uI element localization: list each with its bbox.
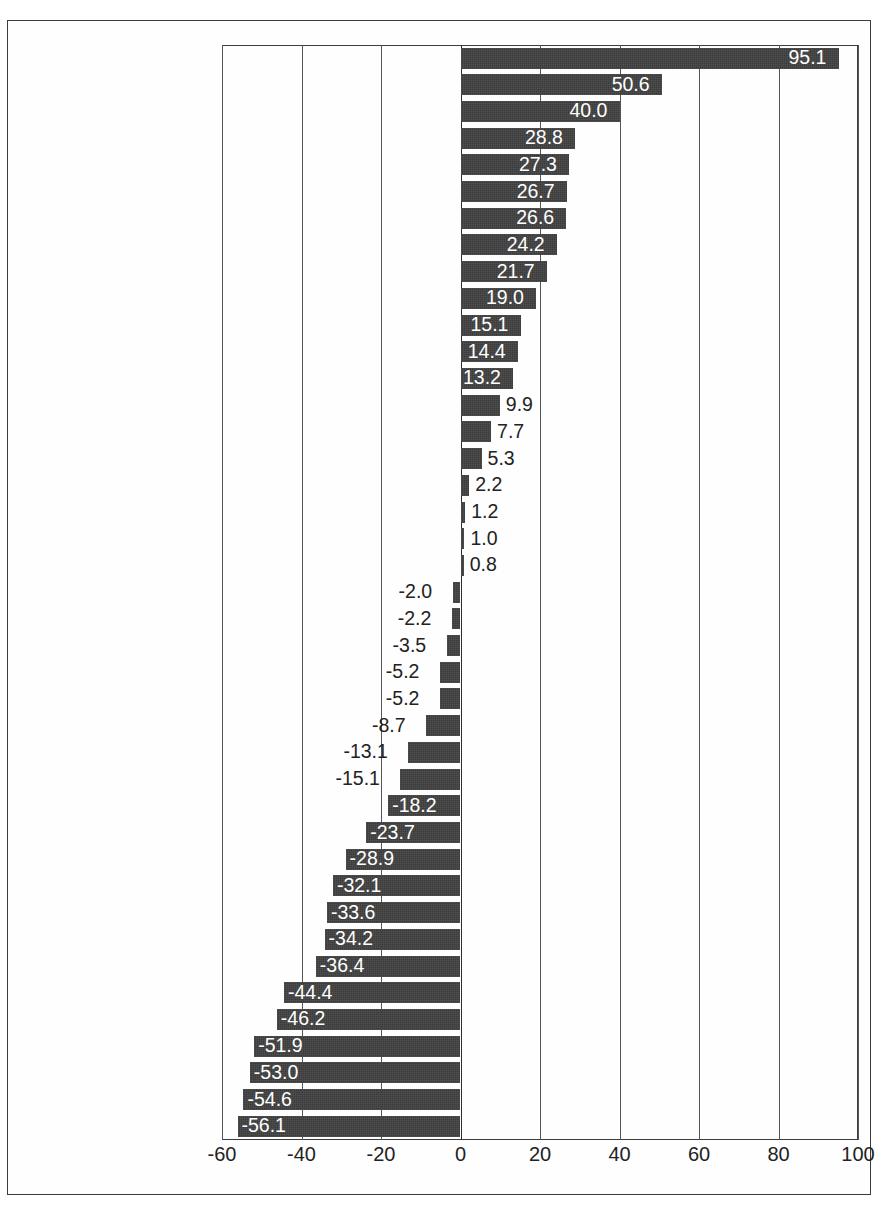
bar [461, 395, 500, 416]
bar-row: Japan5.3 [222, 446, 858, 472]
bar-value-label: -15.1 [335, 768, 379, 790]
bar-value-label: -32.1 [337, 875, 381, 897]
bar-row: United States14.4 [222, 339, 858, 365]
bar-row: Czech Republic-23.7 [222, 820, 858, 846]
bar-row: Hungary-32.1 [222, 873, 858, 899]
bar-row: Australia28.8 [222, 125, 858, 151]
bar [426, 715, 461, 736]
bar-value-label: 1.0 [470, 528, 497, 550]
x-tick-label: 40 [608, 1143, 630, 1166]
bar-row: Finland13.2 [222, 365, 858, 391]
bar-row: Slovakia-33.6 [222, 900, 858, 926]
bar-row: Poland-28.9 [222, 846, 858, 872]
bar-value-label: 19.0 [486, 287, 524, 309]
bar [461, 448, 482, 469]
x-tick-label: 80 [767, 1143, 789, 1166]
bar-value-label: 2.2 [475, 474, 502, 496]
bar-row: Bulgaria-46.2 [222, 1006, 858, 1032]
bar [461, 502, 466, 523]
bar [447, 635, 461, 656]
bar-value-label: -13.1 [343, 741, 387, 763]
bar-value-label: 95.1 [789, 47, 827, 69]
bar-value-label: 50.6 [612, 74, 650, 96]
bar-row: Austria15.1 [222, 312, 858, 338]
x-axis: -60-40-20020406080100 [222, 1141, 858, 1177]
bar-row: Romania-44.4 [222, 980, 858, 1006]
bar-row: United Kingdom-15.1 [222, 766, 858, 792]
bar-value-label: 26.7 [517, 181, 555, 203]
bar [461, 421, 492, 442]
bar-value-label: 21.7 [497, 261, 535, 283]
bar-row: Liechtenstein19.0 [222, 285, 858, 311]
bar-row: Iceland24.2 [222, 232, 858, 258]
bar-value-label: -36.4 [320, 955, 364, 977]
gridline-100 [858, 45, 859, 1140]
bar-row: New Zealand26.7 [222, 179, 858, 205]
bar-row: Ukraine-51.9 [222, 1033, 858, 1059]
bar [461, 475, 470, 496]
bar-row: Belgium-5.2 [222, 686, 858, 712]
bar-value-label: -3.5 [393, 635, 427, 657]
x-tick-label: 20 [529, 1143, 551, 1166]
bar-row: Canada21.7 [222, 259, 858, 285]
bar-row: Belarus-36.4 [222, 953, 858, 979]
bar-value-label: 1.2 [471, 501, 498, 523]
bar-row: European Community-2.2 [222, 606, 858, 632]
bar-value-label: -44.4 [288, 982, 332, 1004]
bar-value-label: -2.0 [399, 581, 433, 603]
bar-row: Spain50.6 [222, 72, 858, 98]
bar-value-label: 28.8 [525, 127, 563, 149]
bar-row: Monaco-13.1 [222, 739, 858, 765]
bar [408, 742, 460, 763]
bar-row: Croatia-5.2 [222, 659, 858, 685]
bar-row: Switzerland0.8 [222, 552, 858, 578]
bar-row: Germany-18.2 [222, 793, 858, 819]
bar-value-label: 5.3 [488, 448, 515, 470]
bar-row: Greece27.3 [222, 152, 858, 178]
bar [440, 662, 461, 683]
x-tick-label: 100 [841, 1143, 874, 1166]
bar-value-label: 24.2 [507, 234, 545, 256]
bar-value-label: -23.7 [370, 822, 414, 844]
bar-row: Russian Federation-34.2 [222, 926, 858, 952]
bar-row: Denmark2.2 [222, 472, 858, 498]
bar [440, 688, 461, 709]
bar-value-label: 13.2 [463, 367, 501, 389]
bar-row: Slovenia1.2 [222, 499, 858, 525]
bar-value-label: -18.2 [392, 795, 436, 817]
x-tick-label: -60 [208, 1143, 237, 1166]
bar [400, 769, 460, 790]
bar-value-label: -46.2 [281, 1008, 325, 1030]
bar-value-label: 15.1 [471, 314, 509, 336]
bar-row: Netherlands-2.0 [222, 579, 858, 605]
plot-area: Turkey95.1Spain50.6Portugal40.0Australia… [222, 45, 858, 1140]
bar-value-label: -56.1 [242, 1115, 286, 1137]
bar-value-label: 40.0 [570, 100, 608, 122]
bar-value-label: -8.7 [372, 715, 406, 737]
bar [461, 528, 465, 549]
bar-row: Estonia-54.6 [222, 1087, 858, 1113]
bar-value-label: -5.2 [386, 661, 420, 683]
bar-value-label: 0.8 [470, 554, 497, 576]
x-tick-label: 60 [688, 1143, 710, 1166]
bar-value-label: -33.6 [331, 902, 375, 924]
bar [461, 48, 839, 69]
bar-value-label: 7.7 [497, 421, 524, 443]
bar-row: Lithuania-53.0 [222, 1060, 858, 1086]
bar-row: Luxembourg1.0 [222, 526, 858, 552]
bar-value-label: -53.0 [254, 1062, 298, 1084]
bar-value-label: 9.9 [506, 394, 533, 416]
bar-row: Latvia-56.1 [222, 1113, 858, 1139]
bar-value-label: -34.2 [329, 928, 373, 950]
x-tick-label: -20 [367, 1143, 396, 1166]
bar-chart: Turkey95.1Spain50.6Portugal40.0Australia… [0, 0, 881, 1215]
bar-row: Turkey95.1 [222, 45, 858, 71]
bar-value-label: 27.3 [519, 154, 557, 176]
bar-row: Sweden-8.7 [222, 713, 858, 739]
x-tick-label: -40 [287, 1143, 316, 1166]
bar-value-label: -51.9 [258, 1035, 302, 1057]
bar-value-label: -5.2 [386, 688, 420, 710]
bar [452, 608, 461, 629]
bar-row: Italy9.9 [222, 392, 858, 418]
bar [461, 555, 464, 576]
